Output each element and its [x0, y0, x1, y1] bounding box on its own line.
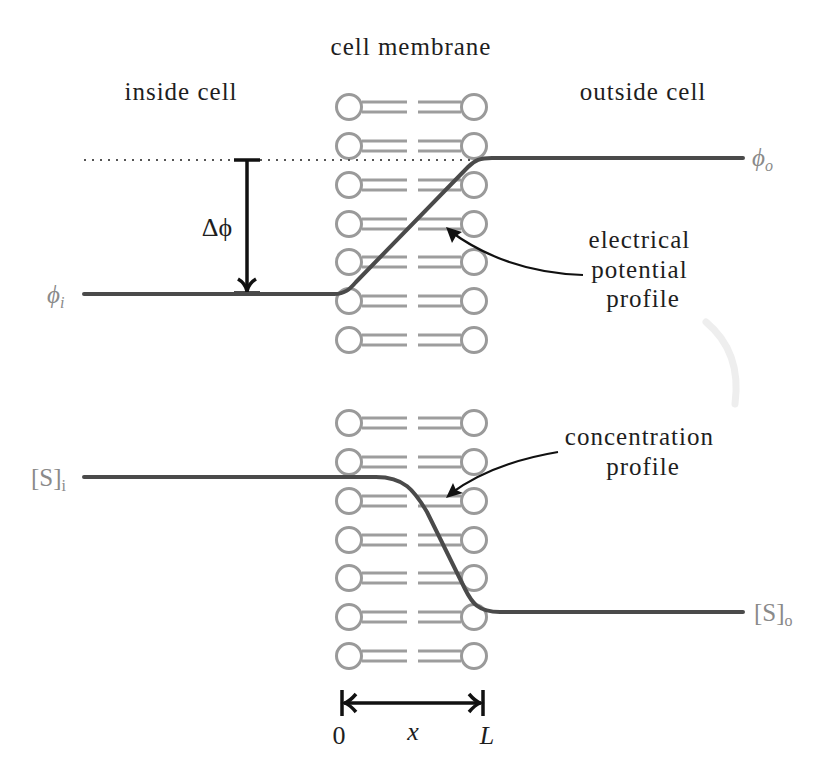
membrane-diagram: cell membrane inside cell outside cell Δ…: [0, 0, 831, 782]
lipid-pair: [337, 328, 487, 353]
axis-end-label: L: [479, 721, 494, 750]
lipid-pair: [337, 450, 487, 475]
lipid-pair: [337, 528, 487, 553]
membrane-thickness-axis: [342, 690, 483, 716]
lower-membrane: [337, 411, 487, 669]
cell-membrane-label: cell membrane: [331, 33, 492, 60]
phi-inside-label: ϕi: [47, 281, 64, 311]
concentration-annotation: concentration profile: [565, 423, 721, 480]
s-inside-label: [S]i: [31, 464, 67, 494]
lipid-pair: [337, 173, 487, 198]
axis-variable-label: x: [406, 717, 419, 746]
concentration-profile-line: [84, 477, 743, 612]
delta-phi-bracket: [234, 160, 260, 293]
lipid-pair: [337, 605, 487, 630]
lipid-pair: [337, 95, 487, 120]
phi-outside-label: ϕo: [752, 144, 773, 174]
faint-curved-arrow-icon: [706, 322, 736, 404]
s-outside-label: [S]o: [754, 599, 793, 629]
lipid-pair: [337, 289, 487, 314]
potential-annotation: electrical potential profile: [589, 226, 698, 312]
outside-cell-label: outside cell: [580, 78, 707, 105]
lipid-pair: [337, 411, 487, 436]
axis-start-label: 0: [333, 721, 346, 750]
lipid-pair: [337, 134, 487, 159]
delta-phi-label: Δϕ: [202, 213, 232, 242]
lipid-pair: [337, 250, 487, 275]
lipid-pair: [337, 644, 487, 669]
inside-cell-label: inside cell: [124, 78, 237, 105]
